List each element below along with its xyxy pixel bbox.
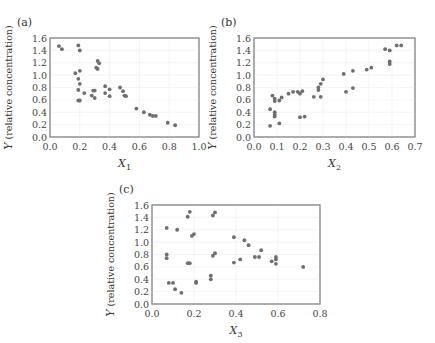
y-tick-label: 1.6	[134, 200, 149, 211]
y-tick-label: 0.4	[134, 274, 149, 285]
data-point	[253, 255, 257, 259]
x-tick-label: 0.2	[186, 308, 201, 319]
data-point	[192, 232, 196, 236]
data-point	[274, 258, 278, 262]
data-point	[301, 265, 305, 269]
data-point	[270, 259, 274, 263]
data-point	[243, 238, 247, 242]
x-axis-label: X3	[229, 324, 243, 339]
data-point	[213, 211, 217, 215]
data-point	[165, 256, 169, 260]
chart-svg-c: 0.00.20.40.60.80.00.20.40.60.81.01.21.41…	[0, 0, 435, 343]
data-point	[165, 226, 169, 230]
data-point	[257, 255, 261, 259]
data-point	[209, 274, 213, 278]
data-point	[165, 253, 169, 257]
data-point	[173, 287, 177, 291]
x-tick-label: 0.4	[228, 308, 243, 319]
panel-label: (c)	[119, 183, 134, 196]
data-point	[247, 243, 251, 247]
x-tick-label: 0.6	[270, 308, 285, 319]
data-point	[188, 261, 192, 265]
y-tick-label: 0.8	[134, 249, 149, 260]
scatter-panel-c: 0.00.20.40.60.80.00.20.40.60.81.01.21.41…	[0, 0, 435, 343]
x-tick-label: 0.8	[312, 308, 327, 319]
y-tick-label: 0.2	[134, 286, 149, 297]
data-point	[213, 251, 217, 255]
y-tick-label: 0.6	[134, 261, 149, 272]
y-tick-label: 1.0	[134, 237, 149, 248]
data-point	[274, 262, 278, 266]
data-point	[232, 235, 236, 239]
y-tick-label: 1.2	[134, 224, 149, 235]
data-point	[211, 214, 215, 218]
data-point	[186, 215, 190, 219]
data-point	[171, 281, 175, 285]
data-point	[194, 281, 198, 285]
data-point	[238, 258, 242, 262]
y-tick-label: 0.0	[134, 299, 149, 310]
data-point	[175, 228, 179, 232]
data-point	[259, 248, 263, 252]
data-point	[232, 261, 236, 265]
x-tick-label: 0.0	[144, 308, 159, 319]
y-tick-label: 1.4	[134, 212, 149, 223]
data-point	[180, 291, 184, 295]
data-point	[209, 277, 213, 281]
y-axis-label: Y (relative concentration)	[104, 192, 117, 316]
data-point	[167, 281, 171, 285]
data-point	[188, 210, 192, 214]
